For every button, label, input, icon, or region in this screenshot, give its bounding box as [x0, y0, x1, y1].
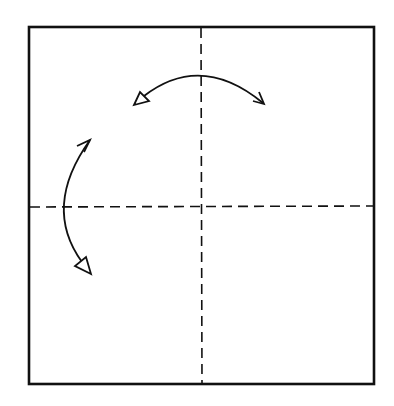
origami-diagram [0, 0, 394, 406]
